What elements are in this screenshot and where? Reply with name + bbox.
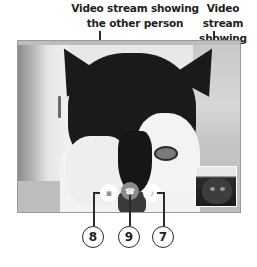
callout-number: 8 <box>89 230 97 244</box>
switch-camera-button[interactable]: ◙ <box>100 184 118 202</box>
door-handle <box>58 96 61 118</box>
cat-eye <box>154 146 178 161</box>
video-call-screen: ◙ ☎ ♪ <box>17 40 241 213</box>
callout-9: 9 <box>118 226 140 248</box>
self-view-cat-eye <box>220 187 225 191</box>
camera-icon: ◙ <box>107 189 112 198</box>
callout-7: 7 <box>152 226 174 248</box>
self-view-cat <box>202 178 232 204</box>
callout-number: 7 <box>159 230 167 244</box>
microphone-icon: ♪ <box>150 189 154 198</box>
leader-line-end-call <box>129 195 131 226</box>
self-view-cat-eye <box>210 187 215 191</box>
leader-line-camera <box>93 192 95 226</box>
callout-number: 9 <box>125 230 133 244</box>
self-video-stream[interactable] <box>195 166 237 207</box>
caption-line: Video stream <box>190 1 256 31</box>
callout-8: 8 <box>82 226 104 248</box>
leader-line-mic <box>163 192 165 226</box>
